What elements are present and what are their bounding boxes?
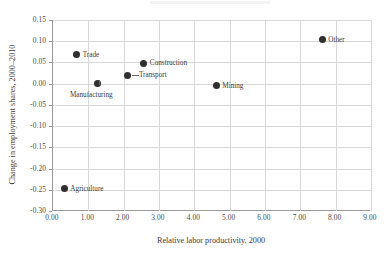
y-axis-tick-mark: [49, 41, 52, 42]
data-point-label: Transport: [139, 71, 167, 79]
gridline-vertical: [194, 20, 195, 211]
gridline-vertical: [371, 20, 372, 211]
data-point-label: Trade: [83, 51, 100, 59]
plot-area: [52, 20, 370, 211]
gridline-horizontal: [53, 105, 371, 106]
gridline-vertical: [336, 20, 337, 211]
top-edge-artifact: [150, 1, 270, 4]
x-axis-tick-label: 8.00: [315, 213, 355, 222]
data-point-label: Other: [328, 36, 344, 44]
label-leader-line: [132, 75, 139, 76]
gridline-horizontal: [53, 147, 371, 148]
y-axis-tick-mark: [49, 20, 52, 21]
gridline-vertical: [265, 20, 266, 211]
y-axis-tick-mark: [49, 126, 52, 127]
gridline-vertical: [300, 20, 301, 211]
label-leader-line: [99, 80, 100, 85]
x-axis-tick-label: 3.00: [138, 213, 178, 222]
y-axis-tick-mark: [49, 147, 52, 148]
y-axis-tick-mark: [49, 190, 52, 191]
y-axis-tick-label: -0.20: [0, 164, 46, 173]
gridline-horizontal: [53, 62, 371, 63]
gridline-vertical: [88, 20, 89, 211]
x-axis-tick-label: 6.00: [244, 213, 284, 222]
x-axis-tick-label: 2.00: [103, 213, 143, 222]
y-axis-tick-label: -0.30: [0, 206, 46, 215]
y-axis-tick-label: -0.15: [0, 142, 46, 151]
x-axis-tick-label: 5.00: [209, 213, 249, 222]
scatter-chart-figure: Change in employment shares, 2000–2010 R…: [0, 0, 386, 261]
data-point-label: Mining: [222, 82, 243, 90]
gridline-horizontal: [53, 169, 371, 170]
gridline-vertical: [159, 20, 160, 211]
y-axis-tick-label: -0.25: [0, 185, 46, 194]
gridline-vertical: [124, 20, 125, 211]
y-axis-tick-mark: [49, 105, 52, 106]
y-axis-tick-label: 0.05: [0, 57, 46, 66]
y-axis-tick-mark: [49, 84, 52, 85]
data-point-label: Construction: [150, 59, 187, 67]
data-point-label: Agriculture: [70, 185, 103, 193]
y-axis-tick-mark: [49, 62, 52, 63]
y-axis-tick-mark: [49, 169, 52, 170]
x-axis-tick-label: 7.00: [279, 213, 319, 222]
x-axis-tick-label: 1.00: [67, 213, 107, 222]
y-axis-tick-label: 0.00: [0, 79, 46, 88]
y-axis-tick-mark: [49, 211, 52, 212]
x-axis-tick-label: 4.00: [173, 213, 213, 222]
y-axis-tick-label: -0.10: [0, 121, 46, 130]
gridline-vertical: [230, 20, 231, 211]
y-axis-tick-label: -0.05: [0, 100, 46, 109]
gridline-horizontal: [53, 20, 371, 21]
y-axis-tick-label: 0.15: [0, 15, 46, 24]
gridline-horizontal: [53, 126, 371, 127]
x-axis-title: Relative labor productivity, 2000: [52, 236, 370, 245]
y-axis-tick-label: 0.10: [0, 36, 46, 45]
x-axis-tick-label: 9.00: [350, 213, 386, 222]
data-point-label: Manufacturing: [70, 91, 113, 99]
